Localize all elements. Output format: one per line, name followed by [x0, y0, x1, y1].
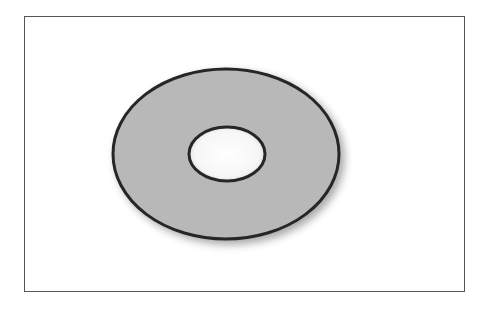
inner-ellipse-hole: [189, 127, 265, 181]
annulus-figure: [0, 0, 489, 309]
